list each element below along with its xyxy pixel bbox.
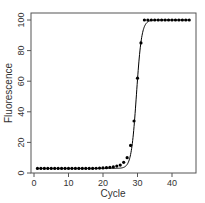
data-point xyxy=(153,18,156,21)
y-tick-label: 20 xyxy=(16,137,26,147)
data-point xyxy=(84,167,87,170)
fit-curve xyxy=(37,20,188,168)
data-point xyxy=(88,167,91,170)
y-tick-label: 60 xyxy=(16,76,26,86)
data-point xyxy=(60,167,63,170)
data-point xyxy=(188,18,191,21)
data-point xyxy=(77,167,80,170)
data-point xyxy=(50,167,53,170)
y-tick-label: 40 xyxy=(16,107,26,117)
data-point xyxy=(143,18,146,21)
data-point xyxy=(164,18,167,21)
y-axis: 020406080100 xyxy=(16,12,31,175)
data-point xyxy=(136,77,139,80)
y-tick-label: 80 xyxy=(16,46,26,56)
y-tick-label: 0 xyxy=(16,170,26,175)
data-point xyxy=(70,167,73,170)
data-point xyxy=(101,166,104,169)
data-point xyxy=(174,18,177,21)
data-point xyxy=(53,167,56,170)
x-tick-label: 40 xyxy=(167,178,177,188)
data-point xyxy=(115,165,118,168)
y-axis-title: Fluorescence xyxy=(3,63,14,123)
data-point xyxy=(150,18,153,21)
data-point xyxy=(67,167,70,170)
data-point xyxy=(181,18,184,21)
data-point xyxy=(95,167,98,170)
data-point xyxy=(91,167,94,170)
x-tick-label: 10 xyxy=(63,178,73,188)
data-point xyxy=(126,156,129,159)
data-point xyxy=(46,167,49,170)
data-point xyxy=(108,166,111,169)
data-point xyxy=(139,41,142,44)
data-points xyxy=(36,18,191,170)
data-point xyxy=(57,167,60,170)
data-point xyxy=(160,18,163,21)
x-axis: 010203040 xyxy=(31,173,177,188)
data-point xyxy=(132,119,135,122)
x-tick-label: 0 xyxy=(31,178,36,188)
data-point xyxy=(74,167,77,170)
data-point xyxy=(43,167,46,170)
data-point xyxy=(98,167,101,170)
data-point xyxy=(36,167,39,170)
data-point xyxy=(167,18,170,21)
data-point xyxy=(39,167,42,170)
data-point xyxy=(119,163,122,166)
x-axis-title: Cycle xyxy=(100,188,125,199)
data-point xyxy=(170,18,173,21)
data-point xyxy=(105,166,108,169)
data-point xyxy=(177,18,180,21)
data-point xyxy=(184,18,187,21)
data-point xyxy=(112,165,115,168)
data-point xyxy=(122,161,125,164)
chart: 020406080100 010203040 Cycle Fluorescenc… xyxy=(0,0,205,203)
data-point xyxy=(146,18,149,21)
data-point xyxy=(63,167,66,170)
x-tick-label: 30 xyxy=(132,178,142,188)
plot-frame xyxy=(31,13,196,173)
data-point xyxy=(157,18,160,21)
data-point xyxy=(129,144,132,147)
data-point xyxy=(81,167,84,170)
x-tick-label: 20 xyxy=(98,178,108,188)
y-tick-label: 100 xyxy=(16,12,26,27)
